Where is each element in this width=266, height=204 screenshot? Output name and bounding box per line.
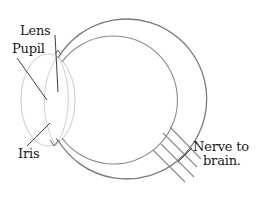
label-pupil: Pupil [12,42,45,56]
lens-shape [44,56,68,146]
label-lens: Lens [20,24,51,38]
cornea-outline [21,54,75,146]
label-iris: Iris [18,147,39,161]
label-nerve-line2: brain. [193,154,249,168]
lens-leader [55,35,58,92]
label-nerve-to-brain: Nerve to brain. [193,140,249,168]
retina-inner-arc [62,36,177,164]
label-nerve-line1: Nerve to [193,140,249,154]
